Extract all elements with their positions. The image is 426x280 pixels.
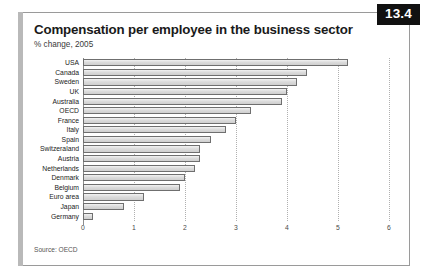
bar-row xyxy=(83,69,307,76)
category-label: Germany xyxy=(51,213,79,220)
chart-title: Compensation per employee in the busines… xyxy=(34,22,353,37)
category-label: Japan xyxy=(60,203,79,210)
bar xyxy=(83,117,236,124)
bar xyxy=(83,213,93,220)
chart-subtitle: % change, 2005 xyxy=(34,40,93,49)
category-label: Spain xyxy=(62,136,79,143)
category-label: Canada xyxy=(55,69,79,76)
x-tick-label: 1 xyxy=(132,224,136,231)
bar-row xyxy=(83,117,236,124)
bar xyxy=(83,136,211,143)
source-note: Source: OECD xyxy=(34,246,78,253)
gridline xyxy=(389,58,390,221)
bar xyxy=(83,174,185,181)
category-label: Belgium xyxy=(54,184,79,191)
bar-row xyxy=(83,107,251,114)
category-label: Denmark xyxy=(51,174,79,181)
x-tick-label: 2 xyxy=(183,224,187,231)
category-label: USA xyxy=(65,59,79,66)
category-axis-labels: USACanadaSwedenUKAustraliaOECDFranceItal… xyxy=(0,58,79,221)
category-label: UK xyxy=(70,88,79,95)
bar xyxy=(83,107,251,114)
category-label: Euro area xyxy=(49,193,79,200)
bar-row xyxy=(83,174,185,181)
bar xyxy=(83,165,195,172)
category-label: Australia xyxy=(53,98,79,105)
category-label: France xyxy=(58,117,79,124)
bar-row xyxy=(83,126,226,133)
category-label: Netherlands xyxy=(42,165,79,172)
bar-row xyxy=(83,98,282,105)
bar xyxy=(83,88,287,95)
bar-row xyxy=(83,165,195,172)
chart-page: 13.4 Compensation per employee in the bu… xyxy=(0,0,426,280)
value-axis-tick-labels: 0123456 xyxy=(83,224,389,236)
category-label: Austria xyxy=(58,155,79,162)
bar-row xyxy=(83,155,200,162)
x-tick-label: 5 xyxy=(336,224,340,231)
bar xyxy=(83,126,226,133)
plot-area xyxy=(83,58,389,221)
x-tick-label: 4 xyxy=(285,224,289,231)
bar-row xyxy=(83,59,348,66)
bar xyxy=(83,193,144,200)
category-label: Switzeraland xyxy=(40,145,79,152)
x-tick-label: 0 xyxy=(81,224,85,231)
bar xyxy=(83,59,348,66)
bar xyxy=(83,203,124,210)
bar xyxy=(83,145,200,152)
category-label: Sweden xyxy=(54,78,79,85)
bar-row xyxy=(83,136,211,143)
bar xyxy=(83,98,282,105)
bar-row xyxy=(83,193,144,200)
x-tick-label: 6 xyxy=(387,224,391,231)
bar-row xyxy=(83,88,287,95)
bar-row xyxy=(83,145,200,152)
bar xyxy=(83,69,307,76)
category-label: Italy xyxy=(67,126,79,133)
bar xyxy=(83,78,297,85)
bar xyxy=(83,155,200,162)
bar-row xyxy=(83,203,124,210)
bar-row xyxy=(83,213,93,220)
bar-row xyxy=(83,78,297,85)
bar-row xyxy=(83,184,180,191)
category-label: OECD xyxy=(59,107,79,114)
x-tick-label: 3 xyxy=(234,224,238,231)
bar xyxy=(83,184,180,191)
gridline xyxy=(338,58,339,221)
figure-number-badge: 13.4 xyxy=(377,4,420,25)
